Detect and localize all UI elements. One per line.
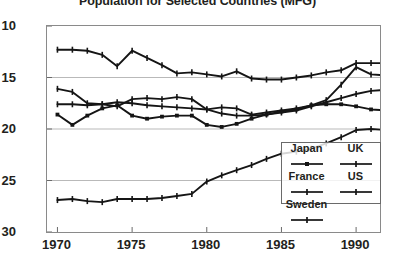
legend[interactable]: Japan UK France US	[281, 142, 381, 204]
x-axis-tick-label: 1970	[26, 238, 86, 251]
legend-item-sweden[interactable]: Sweden	[282, 199, 331, 227]
legend-item-us[interactable]: US	[331, 171, 380, 199]
legend-label: UK	[348, 143, 364, 154]
x-axis-tick-label: 1990	[325, 238, 385, 251]
y-axis-tick-label: 20	[0, 122, 16, 135]
legend-item-japan[interactable]: Japan	[282, 143, 331, 171]
legend-marker-icon	[339, 155, 373, 171]
chart-title: Population for Selected Countries (MFG)	[0, 0, 395, 8]
legend-label: France	[288, 171, 324, 182]
legend-marker-icon	[290, 211, 324, 227]
x-axis-tick-label: 1985	[250, 238, 310, 251]
legend-marker-icon	[290, 155, 324, 171]
chart-container: Population for Selected Countries (MFG) …	[0, 0, 395, 267]
y-axis-tick-label: 30	[0, 225, 16, 238]
y-axis-tick-label: 25	[0, 174, 16, 187]
legend-label: Sweden	[286, 199, 328, 210]
x-axis-tick-label: 1980	[176, 238, 236, 251]
y-axis-tick-label: 10	[0, 19, 16, 32]
x-axis-tick-label: 1975	[101, 238, 161, 251]
legend-item-uk[interactable]: UK	[331, 143, 380, 171]
legend-marker-icon	[339, 183, 373, 199]
legend-label: Japan	[291, 143, 323, 154]
legend-marker-icon	[290, 183, 324, 199]
legend-label: US	[348, 171, 363, 182]
y-axis-tick-label: 15	[0, 71, 16, 84]
legend-item-france[interactable]: France	[282, 171, 331, 199]
